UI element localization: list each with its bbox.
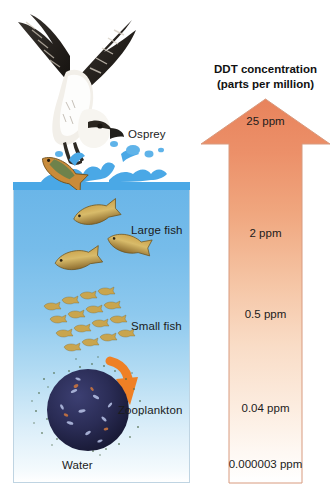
ddt-title-line-2: (parts per million) — [196, 77, 335, 92]
label-zooplankton: Zooplankton — [118, 404, 182, 416]
label-osprey: Osprey — [128, 128, 166, 140]
label-water: Water — [62, 459, 93, 471]
diagram-canvas: Osprey Large fish Small fish Zooplankton… — [0, 0, 335, 497]
ddt-gradient-arrow — [196, 96, 335, 486]
ddt-panel-title: DDT concentration (parts per million) — [196, 62, 335, 92]
water-splash — [13, 138, 190, 190]
food-chain-column: Osprey Large fish Small fish Zooplankton… — [0, 0, 195, 497]
zooplankton-sphere — [47, 369, 129, 451]
ddt-title-line-1: DDT concentration — [196, 62, 335, 77]
label-small-fish: Small fish — [131, 320, 182, 332]
small-fish-school — [44, 287, 135, 351]
ddt-concentration-panel: DDT concentration (parts per million) — [196, 0, 335, 497]
label-large-fish: Large fish — [131, 224, 183, 236]
